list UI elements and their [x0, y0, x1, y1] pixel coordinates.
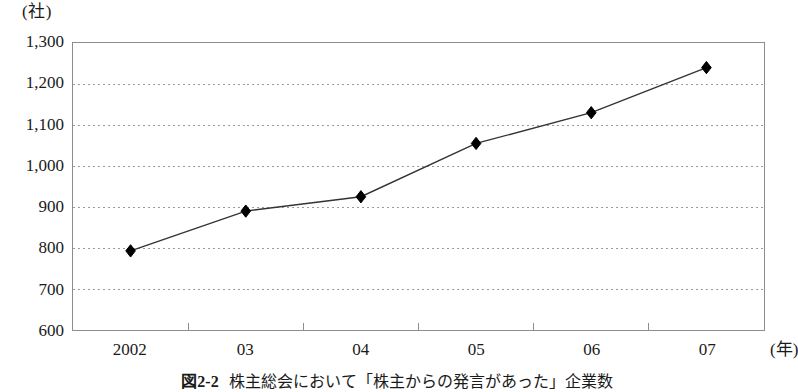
data-point-marker	[702, 61, 712, 73]
y-axis-tick-label: 1,200	[0, 74, 64, 91]
x-axis-tick-labels: 20020304050607	[72, 340, 765, 366]
data-point-marker	[356, 191, 366, 203]
data-point-marker	[586, 107, 596, 119]
x-axis-tick-label: 03	[237, 340, 254, 360]
data-point-marker	[241, 205, 251, 217]
x-axis-tick-label: 07	[699, 340, 716, 360]
series-polyline	[131, 68, 707, 251]
y-axis-tick-label: 800	[0, 239, 64, 256]
y-axis-tick-label: 1,300	[0, 33, 64, 50]
x-axis-tick-label: 06	[583, 340, 600, 360]
x-axis-tick-label: 2002	[113, 340, 147, 360]
data-series-line	[73, 43, 764, 330]
x-axis-tick-label: 05	[468, 340, 485, 360]
plot-area	[72, 42, 765, 331]
caption-text: 株主総会において「株主からの発言があった」企業数	[229, 373, 613, 390]
y-axis-tick-label: 900	[0, 198, 64, 215]
y-axis-tick-label: 700	[0, 281, 64, 298]
y-axis-unit-label: (社)	[22, 2, 52, 22]
y-axis-tick-label: 1,000	[0, 157, 64, 174]
y-axis-tick-label: 600	[0, 322, 64, 339]
x-axis-tick-label: 04	[352, 340, 369, 360]
figure-caption: 図2-2株主総会において「株主からの発言があった」企業数	[0, 372, 794, 392]
data-point-marker	[126, 245, 136, 257]
caption-number: 図2-2	[181, 373, 218, 390]
y-axis-tick-labels: 6007008009001,0001,1001,2001,300	[0, 42, 64, 331]
data-point-marker	[471, 137, 481, 149]
x-axis-unit-label: (年)	[770, 340, 798, 360]
y-axis-tick-label: 1,100	[0, 116, 64, 133]
